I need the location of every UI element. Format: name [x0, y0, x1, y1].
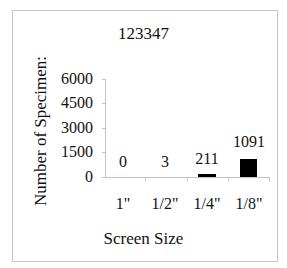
bar-1-4-inch — [198, 174, 216, 177]
data-label: 0 — [101, 153, 145, 171]
data-label: 3 — [143, 153, 187, 171]
data-label: 211 — [185, 150, 229, 168]
y-tick-label: 6000 — [61, 71, 93, 87]
y-axis-label: Number of Specimen: — [31, 56, 51, 206]
y-tick-label: 4500 — [61, 95, 93, 111]
x-tick-label: 1/2" — [143, 195, 187, 213]
y-tick-label: 1500 — [61, 144, 93, 160]
chart-title: 123347 — [0, 24, 287, 44]
data-label: 1091 — [227, 133, 271, 151]
x-tick-mark — [187, 177, 188, 181]
y-tick-label: 0 — [85, 169, 93, 185]
y-tick-label: 3000 — [61, 120, 93, 136]
x-tick-mark — [145, 177, 146, 181]
x-axis — [102, 177, 270, 178]
x-tick-label: 1/4" — [185, 195, 229, 213]
x-tick-mark — [228, 177, 229, 181]
y-tick-mark — [102, 128, 106, 129]
x-tick-label: 1/8" — [227, 195, 271, 213]
y-tick-mark — [102, 103, 106, 104]
x-tick-label: 1" — [101, 195, 145, 213]
bar-1-8-inch — [240, 159, 257, 177]
y-tick-mark — [102, 177, 106, 178]
x-axis-label: Screen Size — [0, 229, 287, 249]
x-tick-mark — [269, 177, 270, 181]
y-tick-mark — [102, 79, 106, 80]
